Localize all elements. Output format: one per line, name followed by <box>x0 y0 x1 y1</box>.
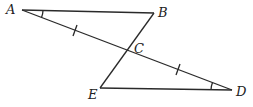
label-c: C <box>134 41 144 56</box>
label-a: A <box>5 2 15 17</box>
label-b: B <box>157 5 168 20</box>
segment-ab <box>22 10 154 13</box>
angle-arc-a <box>42 10 44 17</box>
label-d: D <box>235 84 247 99</box>
geometry-diagram: A B C E D <box>0 0 253 107</box>
angle-arc-d <box>211 83 213 90</box>
label-e: E <box>87 87 98 102</box>
segment-be <box>100 13 154 88</box>
segment-ed <box>100 88 232 90</box>
